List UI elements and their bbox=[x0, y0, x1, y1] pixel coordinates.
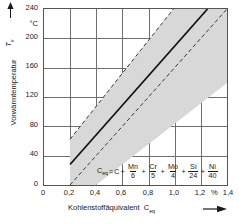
preheat-temperature-chart: 240 °C 200 160 120 80 40 0 Vorwärmtemper… bbox=[0, 0, 239, 224]
formula-first-term: C bbox=[114, 167, 119, 176]
y-axis-arrow-icon bbox=[6, 2, 15, 18]
y-tick-160: 160 bbox=[0, 62, 38, 70]
x-tick-0.8: 0,8 bbox=[143, 188, 153, 197]
carbon-equivalent-formula: Ceq = C + Mn 6 + Cr 5 + Mo 4 + Si 24 bbox=[95, 159, 221, 183]
formula-plus-5: + bbox=[201, 167, 205, 176]
y-tick-0: 0 bbox=[0, 180, 38, 188]
formula-plus-4: + bbox=[182, 167, 186, 176]
y-tick-40: 40 bbox=[0, 150, 38, 158]
y-tick-80: 80 bbox=[0, 121, 38, 129]
x-axis-arrow-icon bbox=[203, 205, 227, 213]
formula-lhs: Ceq bbox=[97, 166, 108, 176]
x-tick-0.4: 0,4 bbox=[90, 188, 100, 197]
formula-plus-1: + bbox=[120, 167, 124, 176]
x-tick-0.2: 0,2 bbox=[64, 188, 74, 197]
formula-plus-2: + bbox=[142, 167, 146, 176]
x-axis-tick-labels: 0 0,2 0,4 0,6 0,8 1,0 1,2 % 1,4 bbox=[0, 188, 239, 200]
formula-term-cr: Cr 5 bbox=[148, 163, 158, 179]
y-axis-title: Vorwärmtemperatur bbox=[9, 33, 18, 153]
y-tick-120: 120 bbox=[0, 91, 38, 99]
x-axis-title: Kohlenstoffäquivalent Ceq bbox=[68, 203, 155, 214]
formula-term-ni: Ni 40 bbox=[208, 163, 218, 179]
x-tick-1.0: 1,0 bbox=[169, 188, 179, 197]
x-axis-unit: % bbox=[211, 188, 218, 197]
formula-term-mn: Mn 6 bbox=[127, 163, 139, 179]
y-axis-unit: °C bbox=[0, 19, 38, 28]
y-axis-symbol: Tv bbox=[4, 40, 15, 47]
formula-equals: = bbox=[109, 167, 113, 176]
x-tick-0: 0 bbox=[41, 188, 45, 197]
x-tick-1.4: 1,4 bbox=[223, 188, 233, 197]
x-tick-0.6: 0,6 bbox=[116, 188, 126, 197]
x-tick-1.2: 1,2 bbox=[195, 188, 205, 197]
formula-plus-3: + bbox=[160, 167, 164, 176]
formula-term-mo: Mo 4 bbox=[167, 163, 179, 179]
formula-term-si: Si 24 bbox=[188, 163, 198, 179]
